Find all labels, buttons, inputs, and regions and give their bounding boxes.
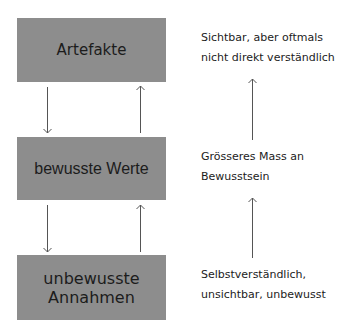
arrow-down-icon [44, 87, 52, 133]
arrow-up-icon [249, 79, 257, 140]
arrows-layer [0, 0, 348, 335]
arrow-down-icon [44, 205, 52, 252]
arrow-up-icon [137, 205, 145, 252]
arrow-up-icon [249, 198, 257, 258]
arrow-up-icon [137, 86, 145, 133]
